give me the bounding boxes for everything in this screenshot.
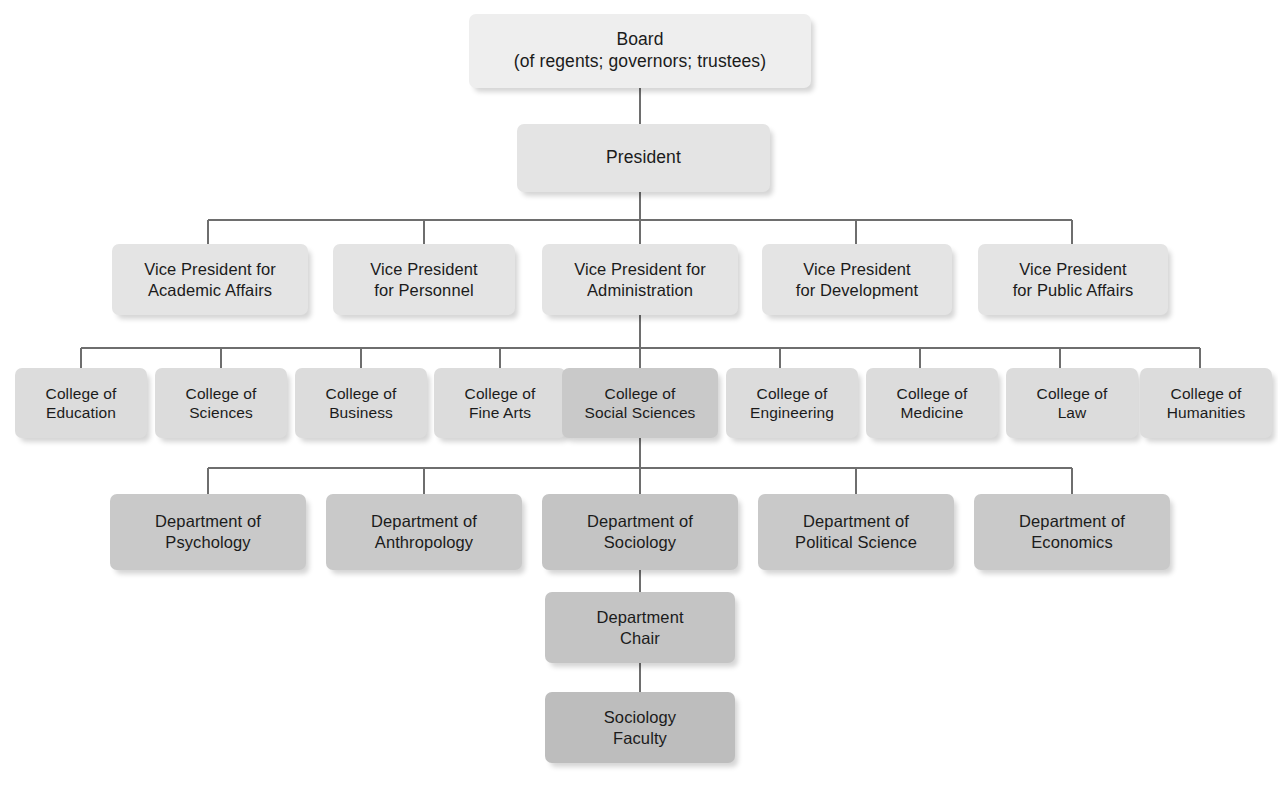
node-vice-president-development[interactable]: Vice President for Development <box>762 244 952 315</box>
node-president-label: President <box>523 147 764 169</box>
node-college-sciences-label: College of Sciences <box>161 384 281 423</box>
node-college-fine-arts[interactable]: College of Fine Arts <box>434 368 566 438</box>
node-college-sciences[interactable]: College of Sciences <box>155 368 287 438</box>
node-board-label: Board (of regents; governors; trustees) <box>475 29 805 73</box>
node-department-psychology[interactable]: Department of Psychology <box>110 494 306 570</box>
node-department-anthropology-label: Department of Anthropology <box>332 511 516 552</box>
node-vice-president-academic-affairs-label: Vice President for Academic Affairs <box>118 259 302 300</box>
node-college-medicine-label: College of Medicine <box>872 384 992 423</box>
node-college-social-sciences[interactable]: College of Social Sciences <box>562 368 718 438</box>
node-vice-president-public-affairs[interactable]: Vice President for Public Affairs <box>978 244 1168 315</box>
node-college-fine-arts-label: College of Fine Arts <box>440 384 560 423</box>
node-college-humanities-label: College of Humanities <box>1146 384 1266 423</box>
node-vice-president-personnel-label: Vice President for Personnel <box>339 259 509 300</box>
node-department-sociology[interactable]: Department of Sociology <box>542 494 738 570</box>
node-vice-president-administration[interactable]: Vice President for Administration <box>542 244 738 315</box>
node-college-engineering[interactable]: College of Engineering <box>726 368 858 438</box>
node-vice-president-administration-label: Vice President for Administration <box>548 259 732 300</box>
node-board[interactable]: Board (of regents; governors; trustees) <box>469 14 811 88</box>
node-president[interactable]: President <box>517 124 770 192</box>
node-vice-president-public-affairs-label: Vice President for Public Affairs <box>984 259 1162 300</box>
node-college-business-label: College of Business <box>301 384 421 423</box>
node-vice-president-academic-affairs[interactable]: Vice President for Academic Affairs <box>112 244 308 315</box>
node-department-sociology-label: Department of Sociology <box>548 511 732 552</box>
node-sociology-faculty-label: Sociology Faculty <box>551 707 729 748</box>
node-department-anthropology[interactable]: Department of Anthropology <box>326 494 522 570</box>
node-department-chair-label: Department Chair <box>551 607 729 648</box>
node-college-education[interactable]: College of Education <box>15 368 147 438</box>
node-vice-president-personnel[interactable]: Vice President for Personnel <box>333 244 515 315</box>
node-department-economics[interactable]: Department of Economics <box>974 494 1170 570</box>
node-college-law[interactable]: College of Law <box>1006 368 1138 438</box>
node-college-engineering-label: College of Engineering <box>732 384 852 423</box>
org-chart: Board (of regents; governors; trustees) … <box>0 0 1278 800</box>
node-department-economics-label: Department of Economics <box>980 511 1164 552</box>
node-college-medicine[interactable]: College of Medicine <box>866 368 998 438</box>
node-department-political-science[interactable]: Department of Political Science <box>758 494 954 570</box>
node-college-business[interactable]: College of Business <box>295 368 427 438</box>
node-department-psychology-label: Department of Psychology <box>116 511 300 552</box>
node-vice-president-development-label: Vice President for Development <box>768 259 946 300</box>
node-sociology-faculty[interactable]: Sociology Faculty <box>545 692 735 763</box>
node-department-political-science-label: Department of Political Science <box>764 511 948 552</box>
node-college-education-label: College of Education <box>21 384 141 423</box>
node-college-humanities[interactable]: College of Humanities <box>1140 368 1272 438</box>
node-college-social-sciences-label: College of Social Sciences <box>568 384 712 423</box>
node-department-chair[interactable]: Department Chair <box>545 592 735 663</box>
node-college-law-label: College of Law <box>1012 384 1132 423</box>
